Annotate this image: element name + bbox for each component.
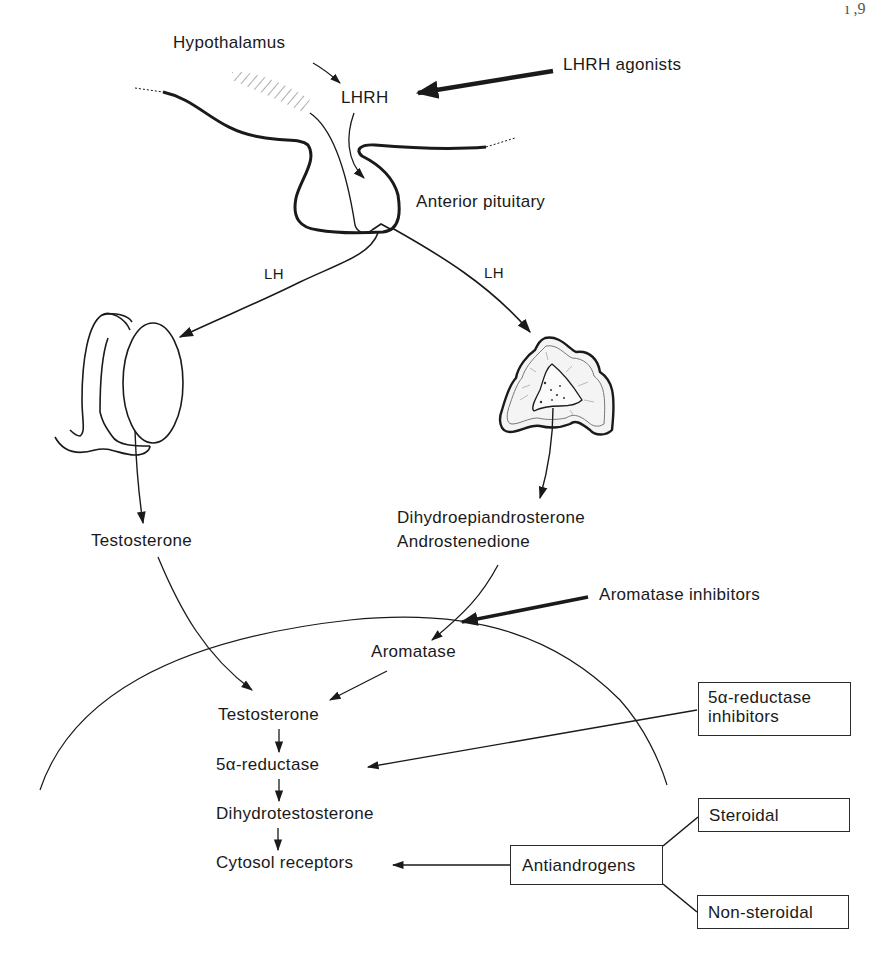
dhea-label: Dihydroepiandrosterone	[397, 508, 585, 528]
aromatase-inhibitors-arrow	[462, 597, 588, 622]
lh-to-testis-arrow	[180, 233, 378, 337]
lhrh-label: LHRH	[341, 88, 389, 108]
lhrh-agonists-arrow	[418, 71, 553, 93]
hypothalamus-to-lhrh-arrow	[313, 63, 340, 83]
cytosol-receptors-label: Cytosol receptors	[216, 853, 353, 873]
antiandrogens-box: Antiandrogens	[510, 845, 663, 885]
lh-left-label: LH	[264, 264, 284, 284]
non-steroidal-label: Non-steroidal	[708, 903, 838, 922]
androstenedione-label: Androstenedione	[397, 532, 530, 552]
testosterone-to-cell-arrow	[158, 557, 252, 690]
dihydrotestosterone-label: Dihydrotestosterone	[216, 804, 374, 824]
lh-right-label: LH	[484, 263, 504, 283]
5ar-inhibitors-line2: inhibitors	[708, 707, 841, 726]
lhrh-agonists-label: LHRH agonists	[563, 55, 681, 75]
lh-to-adrenal-arrow	[392, 228, 530, 332]
steroidal-box: Steroidal	[698, 798, 850, 832]
aromatase-inhibitors-label: Aromatase inhibitors	[599, 585, 760, 605]
branch-to-steroidal	[663, 817, 698, 846]
non-steroidal-box: Non-steroidal	[697, 895, 849, 929]
hypothalamic-nucleus-hatch	[232, 72, 310, 112]
adrenal-drawing	[500, 338, 613, 435]
testis-to-testosterone-arrow	[135, 431, 143, 523]
testosterone-outer-label: Testosterone	[91, 531, 192, 551]
testis-drawing	[55, 313, 183, 455]
5a-reductase-label: 5α-reductase	[216, 755, 319, 775]
5ar-inhibitors-line1: 5α-reductase	[708, 688, 841, 707]
cell-membrane	[40, 617, 667, 790]
antiandrogens-label: Antiandrogens	[522, 856, 651, 875]
steroidal-label: Steroidal	[709, 806, 839, 825]
5a-reductase-inhibitors-box: 5α-reductase inhibitors	[698, 682, 851, 736]
hypothalamus-label: Hypothalamus	[173, 33, 285, 53]
branch-to-nonsteroidal	[663, 884, 697, 912]
anterior-pituitary-label: Anterior pituitary	[416, 192, 545, 212]
aromatase-label: Aromatase	[371, 642, 456, 662]
aromatase-to-testosterone-arrow	[330, 671, 387, 700]
testosterone-cell-label: Testosterone	[218, 705, 319, 725]
androstenedione-to-aromatase-arrow	[432, 565, 498, 640]
page-number-fragment: ı ,9	[845, 0, 865, 18]
